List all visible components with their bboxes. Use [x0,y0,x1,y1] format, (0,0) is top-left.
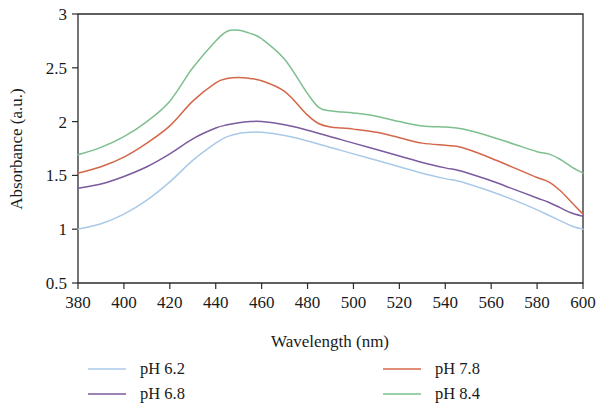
x-tick-label: 400 [111,293,137,312]
x-tick-label: 520 [387,293,413,312]
x-tick-label: 420 [157,293,183,312]
y-axis-ticks: 0.511.522.53 [46,5,78,293]
series-line-ph-6-2 [78,132,583,229]
legend-label-ph-6-8: pH 6.8 [140,384,185,403]
legend-label-ph-7-8: pH 7.8 [435,359,480,378]
y-tick-label: 1.5 [46,166,67,185]
x-axis-ticks: 380400420440460480500520540560580600 [65,283,596,312]
y-axis-title: Absorbance (a.u.) [7,88,26,209]
chart-legend: pH 6.2pH 6.8pH 7.8pH 8.4 [88,359,480,403]
x-tick-label: 500 [341,293,367,312]
x-tick-label: 440 [203,293,229,312]
x-tick-label: 380 [65,293,91,312]
x-tick-label: 600 [570,293,596,312]
x-tick-label: 480 [295,293,321,312]
figure-container: 0.511.522.53 380400420440460480500520540… [0,0,605,413]
y-tick-label: 3 [59,5,68,24]
legend-label-ph-8-4: pH 8.4 [435,384,480,403]
absorbance-spectra-chart: 0.511.522.53 380400420440460480500520540… [0,0,605,413]
series-line-ph-7-8 [78,77,583,214]
x-tick-label: 560 [478,293,504,312]
y-tick-label: 1 [59,220,68,239]
x-axis-title: Wavelength (nm) [271,332,389,351]
x-tick-label: 460 [249,293,275,312]
series-line-ph-6-8 [78,121,583,216]
plot-frame [78,14,583,283]
data-series-group [78,30,583,229]
y-tick-label: 2 [59,113,68,132]
y-tick-label: 0.5 [46,274,67,293]
y-tick-label: 2.5 [46,59,67,78]
x-tick-label: 540 [433,293,459,312]
x-tick-label: 580 [524,293,550,312]
series-line-ph-8-4 [78,30,583,173]
legend-label-ph-6-2: pH 6.2 [140,359,185,378]
